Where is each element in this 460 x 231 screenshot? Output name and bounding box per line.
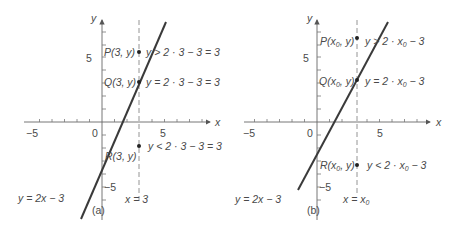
point-q — [137, 80, 141, 84]
point-r-label: R(x0, y) — [320, 159, 355, 172]
x-axis-label: x — [214, 116, 221, 128]
point-r-relation: y < 2 · x0 − 3 — [366, 159, 427, 172]
vertical-line-label: x = x0 — [342, 193, 369, 206]
vertical-line-label: x = 3 — [124, 193, 148, 205]
tick-label-origin: 0 — [92, 127, 98, 139]
point-r-label: R(3, y) — [105, 150, 137, 162]
point-q — [355, 78, 359, 82]
point-q-relation: y = 2 · 3 − 3 = 3 — [145, 76, 220, 88]
tick-label-x-neg5: −5 — [26, 127, 38, 139]
panel-b: y x −5 0 5 5 −5 P(x0, y) y > 2 · x0 − 3 … — [234, 12, 442, 220]
diagram-canvas: y x −5 0 5 5 −5 P(3, y) y > 2 · 3 − 3 = … — [0, 0, 460, 231]
tick-label-y-5: 5 — [86, 52, 92, 64]
point-r — [355, 163, 359, 167]
line-equation-label: y = 2x − 3 — [17, 192, 64, 204]
y-axis-label: y — [306, 12, 313, 24]
y-axis-label: y — [90, 12, 97, 24]
x-axis-label: x — [435, 116, 442, 128]
panel-caption-b: (b) — [307, 204, 320, 216]
point-q-label: Q(x0, y) — [319, 75, 354, 88]
point-p — [137, 50, 141, 54]
point-q-label: Q(3, y) — [104, 76, 136, 88]
point-q-relation: y = 2 · x0 − 3 — [364, 75, 425, 88]
y-ticks — [317, 32, 321, 200]
tick-label-y-5: 5 — [303, 52, 309, 64]
point-p-relation: y > 2 · x0 − 3 — [364, 35, 425, 48]
tick-label-origin: 0 — [307, 127, 313, 139]
tick-label-x-neg5: −5 — [243, 127, 255, 139]
panel-a: y x −5 0 5 5 −5 P(3, y) y > 2 · 3 − 3 = … — [17, 12, 222, 220]
line-equation-label: y = 2x − 3 — [234, 193, 281, 205]
tick-label-y-neg5: −5 — [319, 181, 331, 193]
point-p-label: P(x0, y) — [320, 35, 354, 48]
panel-caption-a: (a) — [92, 204, 105, 216]
point-p-label: P(3, y) — [104, 46, 135, 58]
tick-label-x-5: 5 — [377, 127, 383, 139]
point-p-relation: y > 2 · 3 − 3 = 3 — [145, 46, 220, 58]
point-r — [137, 144, 141, 148]
tick-label-x-5: 5 — [160, 127, 166, 139]
point-r-relation: y < 2 · 3 − 3 = 3 — [147, 140, 222, 152]
tick-label-y-neg5: −5 — [104, 181, 116, 193]
point-p — [355, 36, 359, 40]
